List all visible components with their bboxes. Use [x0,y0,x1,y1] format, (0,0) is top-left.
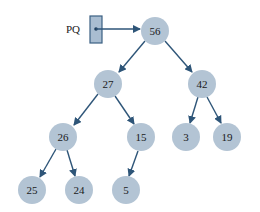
node-56: 56 [141,17,169,45]
pq-label: PQ [66,23,80,35]
node-label: 19 [222,131,234,143]
node-label: 15 [136,131,148,143]
edges [40,41,221,177]
edge-15-5 [129,151,138,176]
node-label: 56 [150,25,162,37]
node-label: 25 [27,184,39,196]
node-5: 5 [112,176,140,204]
node-27: 27 [94,70,122,98]
edge-42-3 [190,97,198,123]
node-42: 42 [188,70,216,98]
edge-27-15 [115,96,134,124]
node-label: 5 [123,184,129,196]
edge-26-24 [67,150,75,176]
node-19: 19 [213,123,241,151]
node-label: 24 [74,184,86,196]
edge-27-26 [74,94,98,125]
edge-56-42 [165,41,192,72]
node-24: 24 [65,176,93,204]
node-26: 26 [49,123,77,151]
node-25: 25 [18,176,46,204]
node-3: 3 [172,123,200,151]
edge-56-27 [119,41,145,72]
node-15: 15 [127,123,155,151]
node-label: 3 [183,131,189,143]
edge-26-25 [40,149,56,177]
node-label: 27 [103,78,115,90]
node-label: 26 [58,131,70,143]
node-label: 42 [197,78,208,90]
heap-diagram: PQ 56 27 42 26 15 3 19 [0,0,260,212]
edge-42-19 [207,97,221,123]
